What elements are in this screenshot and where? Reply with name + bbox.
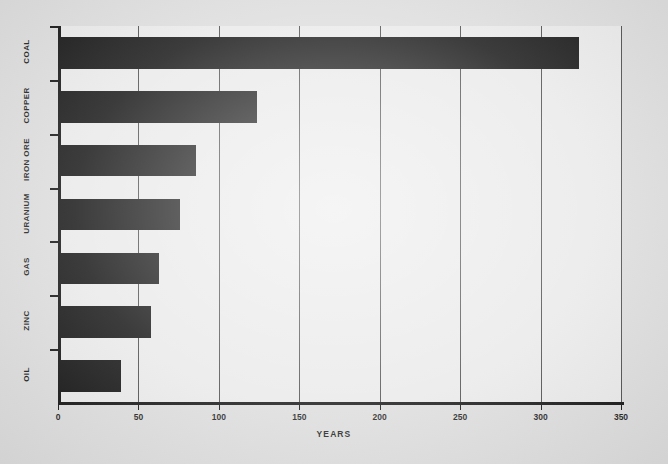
bar-chart-figure: COALCOPPERIRON OREURANIUMGASZINCOIL 0501… bbox=[0, 0, 668, 464]
y-tick-4 bbox=[50, 241, 58, 243]
y-tick-5 bbox=[50, 295, 58, 297]
gridline-300 bbox=[541, 26, 542, 403]
y-tick-6 bbox=[50, 349, 58, 351]
x-tick-label-250: 250 bbox=[453, 412, 467, 422]
gridline-100 bbox=[219, 26, 220, 403]
x-tick-0 bbox=[58, 403, 59, 410]
x-tick-250 bbox=[460, 403, 461, 410]
x-tick-label-0: 0 bbox=[56, 412, 61, 422]
bar-zinc bbox=[58, 306, 151, 338]
x-tick-300 bbox=[541, 403, 542, 410]
bar-gas bbox=[58, 253, 159, 285]
plot-area bbox=[58, 26, 621, 403]
gridline-150 bbox=[299, 26, 300, 403]
y-tick-3 bbox=[50, 188, 58, 190]
gridline-350 bbox=[621, 26, 622, 403]
bar-coal bbox=[58, 37, 579, 69]
y-tick-1 bbox=[50, 80, 58, 82]
category-label-gas: GAS bbox=[0, 262, 52, 271]
y-axis-line bbox=[58, 26, 61, 403]
x-tick-label-300: 300 bbox=[533, 412, 547, 422]
bar-iron-ore bbox=[58, 145, 196, 177]
x-tick-label-50: 50 bbox=[134, 412, 143, 422]
x-tick-label-100: 100 bbox=[212, 412, 226, 422]
x-tick-350 bbox=[621, 403, 622, 410]
x-tick-label-200: 200 bbox=[373, 412, 387, 422]
bar-copper bbox=[58, 91, 257, 123]
category-label-uranium: URANIUM bbox=[0, 209, 52, 218]
category-label-oil: OIL bbox=[0, 370, 52, 379]
bar-uranium bbox=[58, 199, 180, 231]
x-axis-line bbox=[58, 402, 624, 405]
x-tick-label-150: 150 bbox=[292, 412, 306, 422]
x-tick-50 bbox=[138, 403, 139, 410]
y-tick-0 bbox=[50, 26, 58, 28]
category-label-copper: COPPER bbox=[0, 101, 52, 110]
x-tick-100 bbox=[219, 403, 220, 410]
bar-oil bbox=[58, 360, 121, 392]
x-tick-200 bbox=[380, 403, 381, 410]
gridline-200 bbox=[380, 26, 381, 403]
category-label-iron-ore: IRON ORE bbox=[0, 155, 52, 164]
category-label-zinc: ZINC bbox=[0, 316, 52, 325]
y-tick-2 bbox=[50, 134, 58, 136]
gridline-250 bbox=[460, 26, 461, 403]
x-axis-title: YEARS bbox=[0, 429, 668, 439]
x-tick-label-350: 350 bbox=[614, 412, 628, 422]
x-tick-150 bbox=[299, 403, 300, 410]
category-label-coal: COAL bbox=[0, 47, 52, 56]
